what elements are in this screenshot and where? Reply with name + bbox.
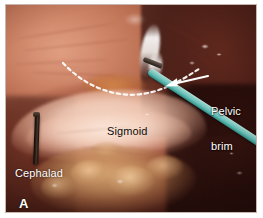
panel-letter-label: A xyxy=(19,197,29,211)
label-sigmoid: Sigmoid xyxy=(107,126,147,138)
label-cephalad: Cephalad xyxy=(15,168,63,180)
label-pelvic-brim-line1: Pelvic xyxy=(211,106,243,118)
endoscopic-photo-frame: Pelvic brim Sigmoid Cephalad A xyxy=(5,4,257,213)
figure-root: Pelvic brim Sigmoid Cephalad A xyxy=(0,0,263,218)
endoscopic-photo-canvas: Pelvic brim Sigmoid Cephalad A xyxy=(6,5,256,212)
label-pelvic-brim: Pelvic brim xyxy=(211,82,243,177)
annotation-overlay: Pelvic brim Sigmoid Cephalad A xyxy=(6,5,256,212)
label-pelvic-brim-line2: brim xyxy=(211,141,243,153)
pelvic-brim-arrow-icon xyxy=(162,73,210,91)
